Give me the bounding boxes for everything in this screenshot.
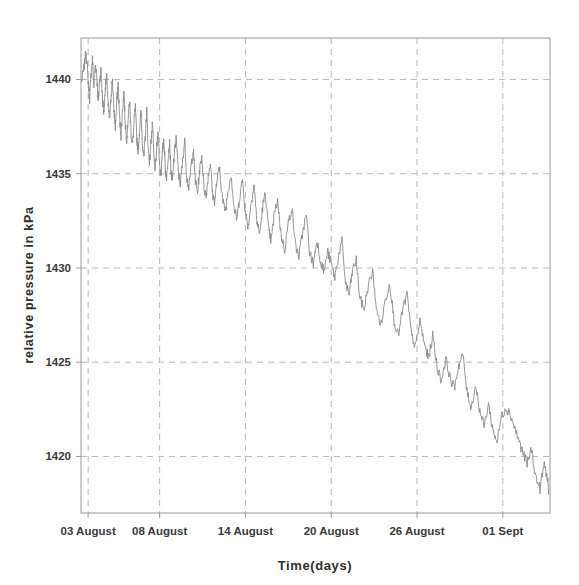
x-tick-label: 08 August <box>132 525 187 537</box>
x-axis-title: Time(days) <box>278 558 352 573</box>
y-tick-label: 1430 <box>45 262 71 274</box>
x-tick-label: 14 August <box>218 525 273 537</box>
chart-figure: 03 August08 August14 August20 August26 A… <box>0 0 579 585</box>
y-tick-label: 1420 <box>45 450 71 462</box>
chart-background <box>0 0 579 585</box>
y-tick-label: 1435 <box>45 168 71 180</box>
pressure-time-line-chart: 03 August08 August14 August20 August26 A… <box>0 0 579 585</box>
y-axis-title: relative pressure in kPa <box>22 206 36 364</box>
x-tick-label: 03 August <box>61 525 116 537</box>
y-tick-label: 1425 <box>45 356 71 368</box>
x-tick-label: 01 Sept <box>482 525 523 537</box>
x-tick-label: 20 August <box>304 525 359 537</box>
x-tick-label: 26 August <box>389 525 444 537</box>
y-tick-label: 1440 <box>45 73 71 85</box>
